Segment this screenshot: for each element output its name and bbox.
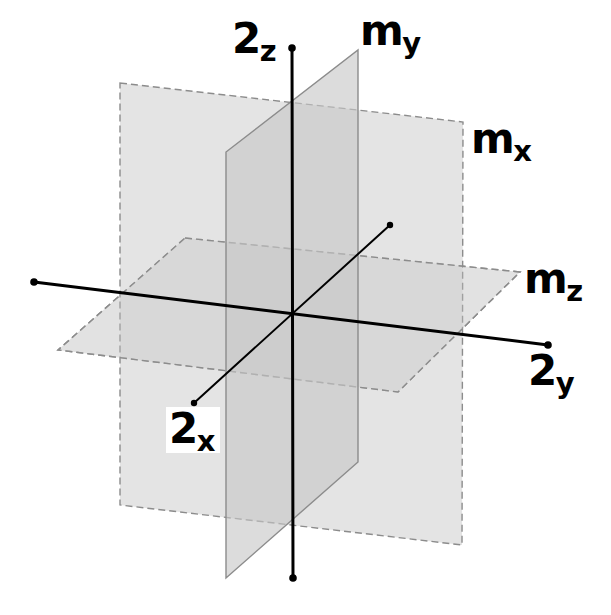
label-2y-sub: y xyxy=(556,366,575,400)
label-2x-lead: 2 xyxy=(169,404,198,453)
axis-2z-cap-end xyxy=(289,574,297,582)
label-mz-lead: m xyxy=(524,254,567,303)
label-mz-sub: z xyxy=(566,274,583,308)
symmetry-diagram-svg xyxy=(0,0,611,615)
axis-2y-cap-start xyxy=(30,278,38,286)
label-2z-lead: 2 xyxy=(232,14,261,63)
label-mx-sub: x xyxy=(513,134,532,168)
axis-2z-cap-start xyxy=(288,44,296,52)
label-my: my xyxy=(360,10,422,52)
label-mz: mz xyxy=(524,258,584,300)
label-my-lead: m xyxy=(360,6,403,55)
label-mx: mx xyxy=(471,118,533,160)
label-2x: 2x xyxy=(166,407,220,453)
label-2z: 2z xyxy=(232,18,278,60)
label-2y-lead: 2 xyxy=(528,346,557,395)
axis-2z xyxy=(292,48,293,578)
label-2z-sub: z xyxy=(260,34,277,68)
symmetry-diagram-canvas: 2z my mx mz 2y 2x xyxy=(0,0,611,615)
label-my-sub: y xyxy=(402,26,421,60)
label-mx-lead: m xyxy=(471,114,514,163)
axis-2x-cap-end xyxy=(387,222,393,228)
label-2y: 2y xyxy=(528,350,576,392)
label-2x-sub: x xyxy=(197,424,216,458)
